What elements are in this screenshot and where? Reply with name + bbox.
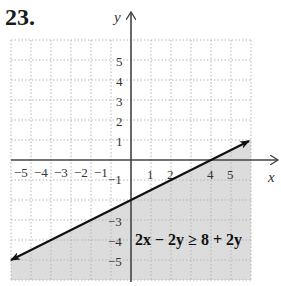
- svg-text:3: 3: [116, 94, 123, 109]
- inequality-label: 2x − 2y ≥ 8 + 2y: [135, 231, 242, 249]
- svg-text:−4: −4: [34, 165, 48, 180]
- coordinate-plane: x y −5 −4 −3 −2 −1 1 2 4 5 5 4 3 2 1 −1 …: [0, 0, 281, 286]
- svg-text:5: 5: [227, 167, 234, 182]
- svg-text:1: 1: [147, 167, 154, 182]
- svg-text:2: 2: [116, 114, 123, 129]
- svg-text:−1: −1: [108, 172, 122, 187]
- svg-text:−3: −3: [54, 165, 68, 180]
- svg-text:5: 5: [116, 54, 123, 69]
- y-tick-labels: 5 4 3 2 1 −1 −3 −4 −5: [108, 54, 123, 269]
- svg-text:1: 1: [116, 134, 123, 149]
- svg-text:−2: −2: [74, 165, 88, 180]
- svg-text:−1: −1: [94, 165, 108, 180]
- y-axis-label: y: [112, 9, 121, 25]
- svg-text:−5: −5: [108, 254, 122, 269]
- svg-text:−4: −4: [108, 234, 122, 249]
- svg-text:−5: −5: [14, 165, 28, 180]
- svg-text:4: 4: [207, 167, 214, 182]
- x-axis-label: x: [267, 169, 275, 185]
- svg-text:4: 4: [116, 74, 123, 89]
- svg-text:−3: −3: [108, 214, 122, 229]
